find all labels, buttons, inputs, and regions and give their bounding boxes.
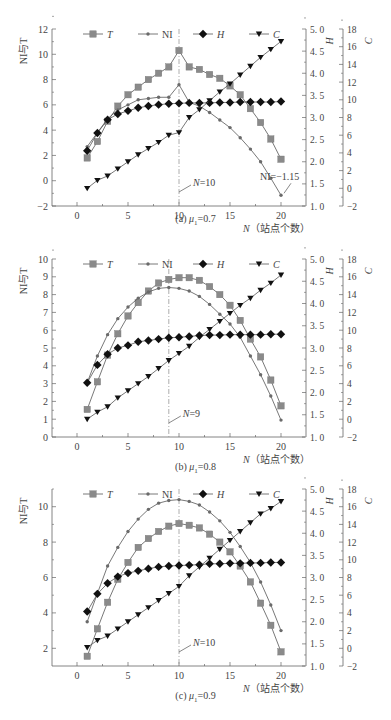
y-tick-label: 9 [43,271,48,282]
caption-b-value: =0.8 [198,461,216,472]
NI-marker [249,354,252,357]
annotation: N=9 [169,408,200,423]
H-marker [134,338,142,346]
T-marker [176,47,182,53]
y-tick-label: 2 [43,396,48,407]
NI-marker [157,501,160,504]
y-axis-H-label: H [324,267,335,276]
y-tick-label: 6 [43,325,48,336]
H-tick-label: 1. 0 [310,433,325,443]
H-marker [83,379,91,387]
NI-marker [188,289,191,292]
figure: −2024681012051015201. 01. 52. 02. 53. 03… [0,0,391,720]
T-marker [247,105,253,111]
T-marker [257,119,263,125]
C-tick-label: 12 [347,78,357,88]
legend-NI-marker [146,492,149,495]
C-marker [125,159,131,164]
y-axis-C-ticks: −2024681012141618 [339,20,357,211]
C-marker [104,634,110,639]
x-tick-label: 20 [276,670,286,681]
H-tick-label: 4. 5 [310,277,325,287]
H-tick-label: 4. 0 [310,69,325,79]
svg-text:N=10: N=10 [192,177,215,188]
C-marker [278,499,284,504]
y-axis-H-ticks: 1. 01. 52. 02. 53. 03. 54. 04. 55. 0 [302,18,325,212]
H-tick-label: 5. 0 [310,25,325,35]
y-tick-label: 7 [43,307,48,318]
NI-marker [126,103,129,106]
H-marker [216,560,224,568]
NI-marker [137,296,140,299]
NI-marker [188,500,191,503]
NI-marker [218,312,221,315]
legend-label: NI [162,489,173,500]
H-tick-label: 1. 5 [310,179,325,189]
C-marker [115,166,121,171]
legend-item-H: H [193,29,225,40]
y-axis-H-label: H [324,37,335,46]
H-marker [185,332,193,340]
T-marker [104,599,110,605]
T-marker [206,283,212,289]
T-marker [206,71,212,77]
T-marker [268,622,274,628]
y-axis-C-ticks: −2024681012141618 [339,480,357,671]
C-marker [166,591,172,596]
C-tick-label: 16 [347,502,357,512]
H-marker [165,100,173,108]
x-tick-label: 10 [174,670,184,681]
y-axis-C-label: C [363,497,374,504]
H-tick-label: 4. 5 [310,47,325,57]
series-H [83,558,285,616]
legend-label: C [273,259,280,270]
C-tick-label: 14 [347,60,357,70]
series-NI [86,83,283,197]
x-tick-label: 5 [126,441,131,452]
T-marker [115,331,121,337]
T-marker [166,276,172,282]
H-marker [175,99,183,107]
NI-marker [86,620,89,623]
y-tick-label: 12 [38,24,48,35]
C-tick-label: 8 [347,113,352,123]
H-tick-label: 1. 5 [310,639,325,649]
C-marker [145,374,151,379]
C-marker [84,417,90,422]
NI-marker [177,287,180,290]
T-marker [94,138,100,144]
T-marker [135,84,141,90]
svg-text:NI=−1.15: NI=−1.15 [260,171,299,182]
legend-label: NI [162,29,173,40]
NI-marker [259,580,262,583]
y-tick-label: 5 [43,343,48,354]
caption-a-value: =0.7 [198,213,216,224]
legend-item-C: C [249,259,280,270]
H-tick-label: 2. 5 [310,135,325,145]
legend-label: C [273,489,280,500]
NI-marker [228,126,231,129]
H-tick-label: 2. 0 [310,388,325,398]
x-tick-label: 15 [225,670,235,681]
H-marker [226,330,234,338]
H-tick-label: 3. 0 [310,113,325,123]
C-tick-label: −2 [347,202,357,212]
y-axis-C-label: C [363,267,374,274]
y-tick-label: 8 [43,289,48,300]
C-tick-label: 10 [347,95,357,105]
y-axis-left-ticks: 012345678910 [38,250,56,442]
NI-marker [218,118,221,121]
H-tick-label: 2. 0 [310,617,325,627]
H-marker [226,559,234,567]
y-tick-label: 8 [43,74,48,85]
NI-marker [208,303,211,306]
C-tick-label: 10 [347,326,357,336]
legend-item-H: H [193,489,225,500]
legend-item-H: H [193,259,225,270]
legend-T-marker [90,31,96,37]
NI-marker [249,147,252,150]
y-tick-label: 4 [43,607,48,618]
C-marker [186,115,192,120]
y-tick-label: 10 [38,501,48,512]
H-marker [256,559,264,567]
